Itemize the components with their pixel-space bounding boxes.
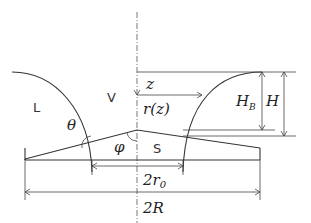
phi-label: φ (114, 138, 125, 156)
right-meniscus-curve (183, 72, 262, 172)
two-R-label: 2R (142, 199, 164, 217)
phi-arc (127, 133, 137, 141)
h-label: H (265, 92, 280, 110)
r-of-z-label: r(z) (143, 100, 170, 118)
vapor-label: V (107, 90, 116, 105)
meniscus-diagram: L V S θ φ z r(z) HB H 2r0 2R (0, 0, 311, 223)
two-r0-label: 2r0 (142, 171, 167, 190)
liquid-label: L (33, 100, 41, 115)
hb-label: HB (235, 92, 256, 112)
z-label: z (145, 75, 154, 93)
solid-label: S (153, 141, 161, 156)
left-meniscus-curve (12, 72, 92, 172)
solid-top-edge (25, 130, 260, 159)
theta-label: θ (67, 116, 76, 134)
